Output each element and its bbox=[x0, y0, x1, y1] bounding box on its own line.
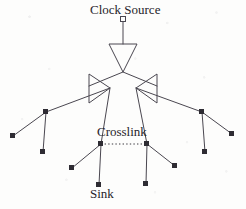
edge-group bbox=[13, 22, 232, 185]
clock-source-marker bbox=[121, 17, 126, 22]
crosslink-label: Crosslink bbox=[97, 125, 147, 138]
tree-graphic bbox=[0, 0, 246, 209]
sink-label: Sink bbox=[90, 187, 114, 200]
buffer-group bbox=[89, 44, 157, 103]
edge-left-buffer-to-left-fork bbox=[46, 88, 110, 112]
sink-node-5 bbox=[143, 181, 148, 186]
edge-left-crosslink-node-to-sink-3 bbox=[72, 144, 101, 168]
edge-right-fork-to-sink-7 bbox=[202, 112, 205, 152]
edge-right-crosslink-node-to-sink-5 bbox=[146, 144, 147, 184]
edge-left-fork-to-sink-2 bbox=[43, 112, 46, 152]
sink-node-8 bbox=[229, 131, 234, 136]
edge-right-crosslink-node-to-sink-6 bbox=[147, 144, 175, 166]
edge-root-to-right-buffer bbox=[123, 72, 157, 86]
clock-tree-diagram: Clock Source Crosslink Sink bbox=[0, 0, 246, 209]
edge-left-crosslink-node-to-sink-4 bbox=[99, 144, 101, 185]
edge-right-buffer-to-right-fork bbox=[136, 88, 202, 112]
root-buffer-triangle bbox=[109, 44, 137, 72]
node-right-fork bbox=[199, 109, 204, 114]
edge-right-fork-to-sink-8 bbox=[202, 112, 232, 134]
sink-node-2 bbox=[40, 149, 45, 154]
node-left-crosslink bbox=[98, 141, 103, 146]
edge-root-to-left-buffer bbox=[89, 72, 123, 86]
sink-node-6 bbox=[172, 163, 177, 168]
sink-node-3 bbox=[69, 165, 74, 170]
clock-source-label: Clock Source bbox=[90, 3, 160, 16]
sink-node-7 bbox=[202, 149, 207, 154]
edge-left-fork-to-sink-1 bbox=[13, 112, 46, 136]
node-right-crosslink bbox=[144, 141, 149, 146]
node-left-fork bbox=[43, 109, 48, 114]
sink-node-1 bbox=[10, 133, 15, 138]
